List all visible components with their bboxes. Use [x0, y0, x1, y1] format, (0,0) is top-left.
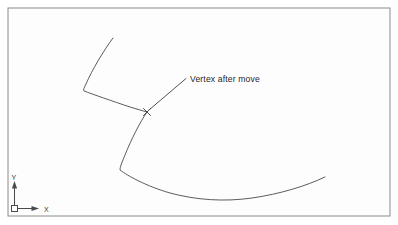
- drawing-frame-border: [8, 8, 390, 216]
- ucs-x-axis-label: X: [44, 206, 49, 213]
- figure-svg: Vertex after move Y X: [0, 0, 398, 225]
- figure-canvas: Vertex after move Y X: [0, 0, 398, 225]
- vertex-annotation-label: Vertex after move: [190, 74, 260, 84]
- ucs-y-axis-label: Y: [12, 174, 17, 181]
- ucs-origin-square: [12, 206, 18, 212]
